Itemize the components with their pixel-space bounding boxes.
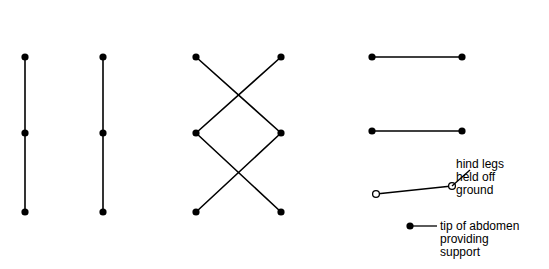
panel-c-node-1-marker [368,53,375,60]
abdomen-tip-note: tip of abdomenprovidingsupport [440,220,519,259]
panel-a-node-2-marker [99,129,106,136]
panel-c-node-2-marker [368,127,375,134]
panel-c-node-2-marker [458,127,465,134]
panel-c-gait-line [376,186,452,194]
panel-b-node-6-marker [277,208,284,215]
panel-b-node-2-marker [277,129,284,136]
gait-diagram-figure: hind legsheld offgroundtip of abdomenpro… [0,0,549,269]
panel-a-node-1-marker [99,208,106,215]
panel-b-node-1-marker [192,53,199,60]
panel-a-node-3-marker [99,53,106,60]
hind-legs-note: hind legsheld offground [456,158,504,197]
panel-b-node-5-marker [192,129,199,136]
panel-c-node-1-marker [458,53,465,60]
abdomen-tip-note-line: support [440,246,519,259]
panel-a-node-5-marker [21,129,28,136]
panel-c-node-open-marker [373,191,380,198]
panel-b-node-3-marker [192,208,199,215]
panel-a-node-4-marker [21,208,28,215]
hind-legs-note-line: ground [456,184,504,197]
panel-b-node-4-marker [277,53,284,60]
panel-a-node-6-marker [21,53,28,60]
